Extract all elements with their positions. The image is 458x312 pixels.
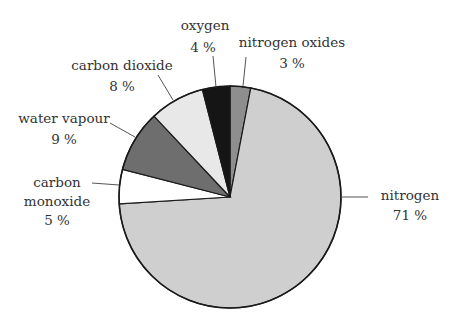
leader-oxygen xyxy=(213,56,216,87)
label-nitrogen-oxides-pct: 3 % xyxy=(279,55,305,71)
label-carbon-monoxide-line2: monoxide xyxy=(24,193,90,209)
label-nitrogen: nitrogen xyxy=(381,187,440,203)
label-nitrogen-pct: 71 % xyxy=(393,207,427,223)
label-water-vapour-pct: 9 % xyxy=(51,131,77,147)
label-carbon-monoxide-pct: 5 % xyxy=(44,212,70,228)
leader-water-vapour xyxy=(110,123,135,137)
label-nitrogen-oxides: nitrogen oxides xyxy=(239,34,345,50)
label-carbon-dioxide-pct: 8 % xyxy=(109,78,135,94)
leader-carbon-dioxide xyxy=(158,75,173,100)
label-carbon-monoxide-line1: carbon xyxy=(33,174,81,190)
label-oxygen: oxygen xyxy=(181,17,230,33)
label-oxygen-pct: 4 % xyxy=(190,39,216,55)
leader-carbon-monoxide xyxy=(92,183,119,185)
label-carbon-dioxide: carbon dioxide xyxy=(71,57,172,73)
leader-nitrogen-oxides xyxy=(243,57,246,86)
pie-chart: nitrogen oxides 3 % oxygen 4 % carbon di… xyxy=(0,0,458,312)
label-water-vapour: water vapour xyxy=(18,110,110,126)
pie-slices xyxy=(119,86,341,308)
